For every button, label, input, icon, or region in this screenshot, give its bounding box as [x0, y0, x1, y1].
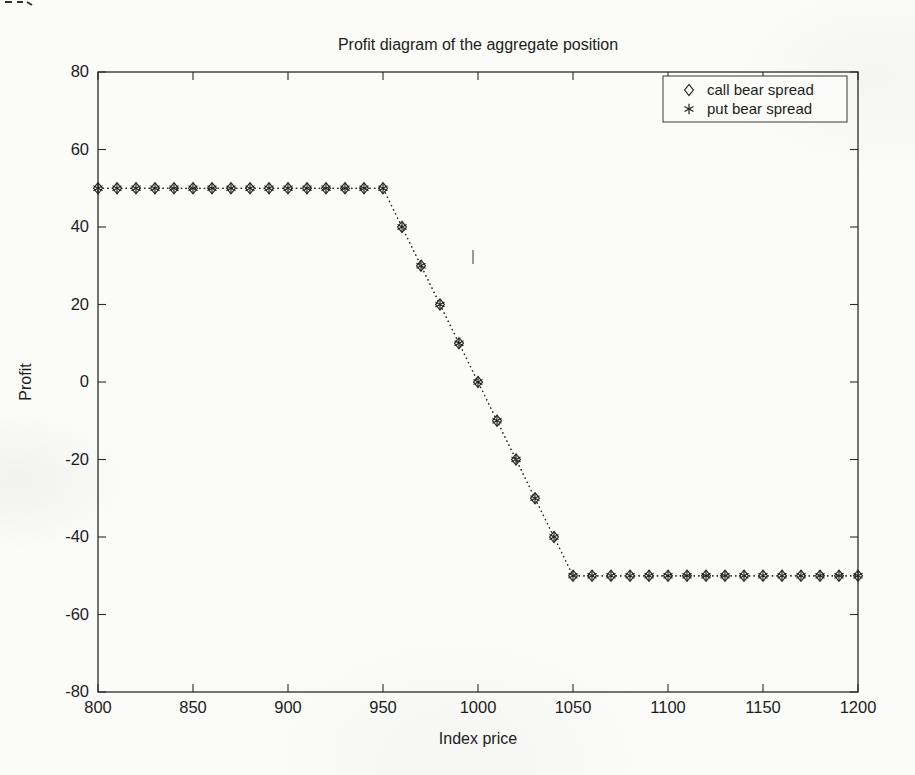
asterisk-marker-icon: [113, 183, 122, 193]
y-tick-label: -20: [65, 450, 89, 468]
y-tick-label: -40: [65, 527, 89, 545]
asterisk-marker-icon: [284, 183, 293, 193]
asterisk-marker-icon: [550, 532, 559, 542]
y-axis-label: Profit: [17, 363, 34, 401]
y-tick-label: 40: [71, 217, 89, 235]
asterisk-marker-icon: [455, 338, 464, 348]
legend-item-label: put bear spread: [707, 100, 812, 117]
x-tick-label: 900: [274, 698, 302, 716]
asterisk-marker-icon: [474, 377, 483, 387]
plot-frame: 80085090095010001050110011501200-80-60-4…: [65, 62, 876, 716]
profit-chart: 80085090095010001050110011501200-80-60-4…: [0, 0, 915, 775]
asterisk-marker-icon: [778, 571, 787, 581]
asterisk-marker-icon: [132, 183, 141, 193]
asterisk-marker-icon: [493, 416, 502, 426]
asterisk-marker-icon: [189, 183, 198, 193]
x-tick-label: 1200: [840, 698, 877, 716]
asterisk-marker-icon: [94, 183, 103, 193]
x-axis-label: Index price: [439, 730, 517, 747]
y-tick-label: 20: [71, 295, 89, 313]
chart-title: Profit diagram of the aggregate position: [338, 36, 618, 53]
asterisk-marker-icon: [569, 571, 578, 581]
cutoff-text-fragment: [5, 2, 32, 5]
x-tick-label: 1000: [460, 698, 497, 716]
x-tick-label: 950: [369, 698, 397, 716]
series-layer: [94, 183, 863, 582]
x-tick-label: 1100: [650, 698, 685, 716]
x-tick-label: 1150: [745, 698, 780, 716]
asterisk-marker-icon: [417, 261, 426, 271]
asterisk-marker-icon: [531, 493, 540, 503]
asterisk-marker-icon: [265, 183, 274, 193]
asterisk-marker-icon: [246, 183, 255, 193]
x-tick-label: 850: [179, 698, 207, 716]
legend: call bear spreadput bear spread: [663, 76, 847, 122]
figure-page: 80085090095010001050110011501200-80-60-4…: [0, 0, 915, 775]
asterisk-marker-icon: [759, 571, 768, 581]
asterisk-marker-icon: [645, 571, 654, 581]
y-tick-label: 60: [71, 140, 89, 158]
asterisk-marker-icon: [607, 571, 616, 581]
series-asterisk: [94, 183, 863, 581]
asterisk-marker-icon: [436, 299, 445, 309]
y-tick-label: -60: [65, 605, 89, 623]
asterisk-marker-icon: [512, 454, 521, 464]
y-tick-label: 0: [80, 372, 89, 390]
x-tick-label: 1050: [555, 698, 592, 716]
x-tick-label: 800: [84, 698, 112, 716]
legend-item-label: call bear spread: [707, 81, 814, 98]
y-tick-label: -80: [65, 682, 89, 700]
y-tick-label: 80: [71, 62, 89, 80]
asterisk-marker-icon: [626, 571, 635, 581]
asterisk-marker-icon: [398, 222, 407, 232]
